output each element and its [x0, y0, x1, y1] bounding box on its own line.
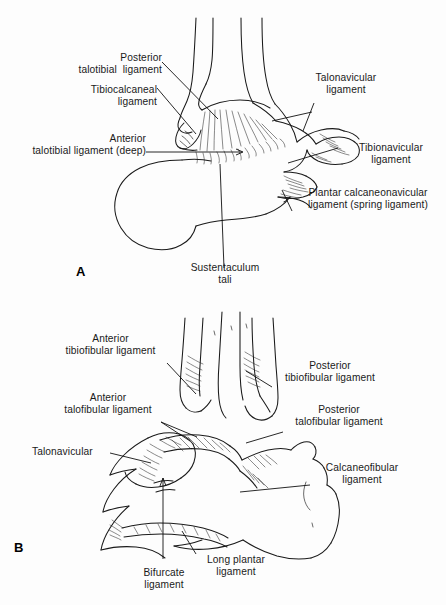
label-line-2: ligament — [118, 96, 157, 107]
tibiocalcaneal-band — [176, 123, 201, 150]
panel-letter-b: B — [14, 540, 23, 555]
label-line-2: tibiofibular ligament — [66, 345, 156, 356]
label-line-1: Long plantar — [207, 554, 265, 565]
label-talonavicular-ligament-a: Talonavicularligament — [300, 72, 392, 97]
tibiofibular-ligament-fibers — [186, 352, 260, 391]
label-line-2: ligament — [371, 154, 410, 165]
label-line-2: talofibular ligament — [64, 404, 152, 415]
label-line-2: talotibial ligament (deep) — [32, 145, 146, 156]
anatomy-figure: Posteriortalotibial ligament Tibiocalcan… — [0, 0, 446, 605]
label-line-1: Anterior — [110, 133, 146, 144]
label-anterior-talofibular-ligament: Anteriortalofibular ligament — [52, 392, 164, 417]
label-line-1: Sustentaculum — [191, 262, 260, 273]
calcaneus-outline-a — [115, 159, 290, 249]
label-line-2: ligament — [326, 84, 365, 95]
talofibular-ligament-bands — [160, 435, 242, 471]
label-line-2: ligament — [342, 474, 381, 485]
label-line-1: Posterior — [120, 52, 162, 63]
label-line-1: Plantar calcaneonavicular — [308, 187, 427, 198]
long-plantar-ligament — [109, 520, 228, 547]
tibia-outline-a — [178, 18, 275, 133]
label-line-1: Tibionavicular — [359, 142, 423, 153]
panel-letter-a: A — [76, 264, 85, 279]
label-tibionavicular-ligament: Tibionavicularligament — [341, 142, 441, 167]
label-long-plantar-ligament: Long plantarligament — [190, 554, 282, 579]
talus-outline-a — [202, 100, 316, 144]
label-calcaneofibular-ligament: Calcaneofibularligament — [312, 462, 412, 487]
deltoid-ligament-fan — [196, 110, 285, 164]
label-anterior-tibiofibular-ligament: Anteriortibiofibular ligament — [53, 333, 168, 358]
label-line-1: Talonavicular — [316, 72, 377, 83]
label-line-2: ligament — [216, 566, 255, 577]
label-anterior-talotibial-ligament-deep: Anteriortalotibial ligament (deep) — [0, 133, 146, 158]
label-line-1: Bifurcate — [143, 567, 184, 578]
label-plantar-calcaneonavicular-ligament: Plantar calcaneonavicularligament (sprin… — [292, 187, 444, 212]
label-tibiocalcaneal-ligament: Tibiocalcanealligament — [0, 84, 157, 109]
label-line-1: Anterior — [92, 333, 128, 344]
label-line-1: Anterior — [90, 392, 126, 403]
talus-navicular-outline-b — [101, 433, 195, 558]
label-line-2: ligament — [144, 579, 183, 590]
label-talonavicular-b: Talonavicular — [32, 446, 112, 458]
calcaneus-outline-b — [174, 442, 339, 559]
label-posterior-talofibular-ligament: Posteriortalofibular ligament — [281, 404, 397, 429]
label-posterior-talotibial-ligament: Posteriortalotibial ligament — [0, 52, 162, 77]
tibia-fibula-outline-b — [180, 312, 278, 420]
label-line-1: Talonavicular — [32, 446, 93, 457]
label-sustentaculum-tali: Sustentaculumtali — [159, 262, 291, 287]
label-line-2: ligament (spring ligament) — [308, 199, 428, 210]
label-posterior-tibiofibular-ligament: Posteriortibiofibular ligament — [269, 360, 391, 385]
label-line-2: talotibial ligament — [78, 64, 162, 75]
label-line-1: Posterior — [318, 404, 360, 415]
label-line-1: Calcaneofibular — [326, 462, 398, 473]
label-line-2: tibiofibular ligament — [285, 372, 375, 383]
label-line-1: Tibiocalcaneal — [91, 84, 157, 95]
label-line-2: talofibular ligament — [295, 416, 383, 427]
label-line-1: Posterior — [309, 360, 351, 371]
label-line-2: tali — [218, 274, 231, 285]
